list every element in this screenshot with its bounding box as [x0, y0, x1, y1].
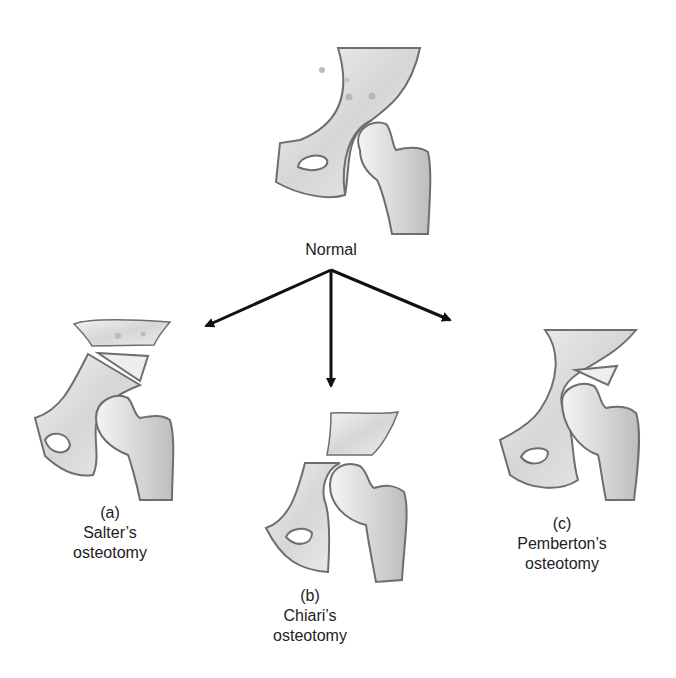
- normal-label-text: Normal: [281, 240, 381, 260]
- label-chiari: (b) Chiari’s osteotomy: [230, 586, 390, 646]
- pemberton-obturator: [521, 448, 548, 463]
- pemberton-wedge-graft: [575, 366, 617, 385]
- chiari-lower-pelvis: [266, 463, 340, 572]
- salter-hip-illustration: [35, 320, 173, 500]
- normal-hip-illustration: [276, 48, 430, 234]
- arrow-to-salter: [206, 270, 331, 326]
- salter-suffix: osteotomy: [30, 543, 190, 563]
- pemberton-letter: (c): [472, 514, 652, 534]
- chiari-letter: (b): [230, 586, 390, 606]
- label-salter: (a) Salter’s osteotomy: [30, 503, 190, 563]
- pemberton-name: Pemberton’s: [472, 534, 652, 554]
- chiari-suffix: osteotomy: [230, 626, 390, 646]
- label-normal: Normal: [281, 240, 381, 260]
- salter-femur: [96, 396, 173, 500]
- salter-upper-ilium: [74, 320, 170, 346]
- label-pemberton: (c) Pemberton’s osteotomy: [472, 514, 652, 574]
- pemberton-suffix: osteotomy: [472, 554, 652, 574]
- chiari-femur: [330, 464, 407, 582]
- salter-letter: (a): [30, 503, 190, 523]
- chiari-hip-illustration: [266, 412, 407, 582]
- salter-name: Salter’s: [30, 523, 190, 543]
- arrows: [206, 270, 450, 386]
- femur-normal: [358, 122, 430, 234]
- chiari-name: Chiari’s: [230, 606, 390, 626]
- arrow-to-pemberton: [331, 270, 450, 320]
- osteotomy-diagram: [0, 0, 676, 678]
- pemberton-hip-illustration: [500, 330, 639, 500]
- chiari-upper-ilium: [327, 412, 398, 455]
- chiari-obturator: [286, 529, 312, 544]
